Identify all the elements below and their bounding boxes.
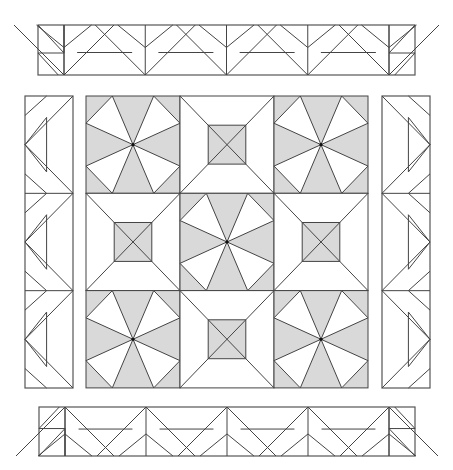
center-block-grid — [86, 96, 368, 388]
right-border — [382, 96, 430, 388]
quilt-diagram — [0, 0, 453, 470]
center-point — [131, 143, 134, 146]
square-in-square-block — [86, 193, 180, 290]
pinwheel-block — [86, 96, 180, 193]
pinwheel-block — [274, 291, 368, 388]
center-point — [319, 338, 322, 341]
center-point — [225, 240, 228, 243]
center-point — [319, 143, 322, 146]
border-frame — [382, 96, 430, 388]
pinwheel-block — [274, 96, 368, 193]
top-border — [14, 25, 439, 75]
pinwheel-block — [86, 291, 180, 388]
pinwheel-block — [180, 193, 274, 290]
border-frame — [25, 96, 73, 388]
bottom-border — [16, 407, 438, 456]
square-in-square-block — [180, 96, 274, 193]
left-border — [25, 96, 73, 388]
square-in-square-block — [180, 291, 274, 388]
center-point — [131, 338, 134, 341]
square-in-square-block — [274, 193, 368, 290]
